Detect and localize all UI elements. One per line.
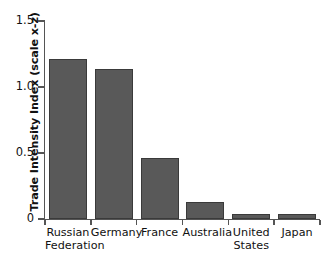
x-axis-category-label: Germany xyxy=(91,227,137,240)
bar xyxy=(278,214,316,219)
x-axis-category-label: Russian Federation xyxy=(45,227,91,252)
bar xyxy=(141,158,179,219)
bar xyxy=(232,214,270,219)
x-axis-tick xyxy=(273,220,274,225)
x-axis-tick xyxy=(182,220,183,225)
bar xyxy=(49,59,87,219)
y-axis-tick-label: 0.5 xyxy=(0,147,34,159)
x-axis-category-label: Australia xyxy=(183,227,229,240)
y-axis-tick xyxy=(38,152,44,153)
y-axis-tick-label: 1.5 xyxy=(0,15,34,27)
y-axis-tick-label: 0 xyxy=(0,213,34,225)
x-axis-tick xyxy=(90,220,91,225)
y-axis-tick xyxy=(38,20,44,21)
x-axis-category-label: France xyxy=(137,227,183,240)
y-axis-tick-label: 1.0 xyxy=(0,81,34,93)
x-axis-tick xyxy=(319,220,320,225)
x-axis-tick xyxy=(44,220,45,225)
bar xyxy=(186,202,224,219)
bar-chart: Trade Intensity Index (scale x-z) 1.51.0… xyxy=(0,0,326,261)
y-axis-title: Trade Intensity Index (scale x-z) xyxy=(27,17,43,212)
y-axis-line xyxy=(44,20,45,220)
x-axis-category-label: United States xyxy=(228,227,274,252)
x-axis-tick xyxy=(228,220,229,225)
bar xyxy=(95,69,133,219)
y-axis-tick xyxy=(38,86,44,87)
x-axis-category-label: Japan xyxy=(274,227,320,240)
y-axis-tick xyxy=(38,218,44,219)
x-axis-tick xyxy=(136,220,137,225)
